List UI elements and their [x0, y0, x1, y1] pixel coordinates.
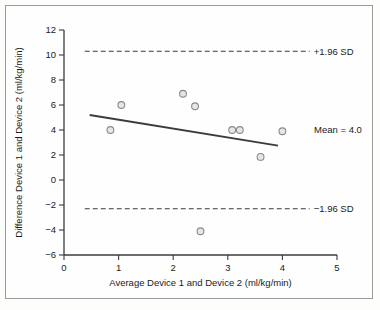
regression-line [90, 115, 278, 146]
y-tick-label: 10 [45, 49, 56, 60]
y-tick-label: 8 [51, 74, 56, 85]
scatter-plot: 012345−6−4−2024681012Average Device 1 an… [0, 0, 380, 310]
data-point [279, 128, 286, 135]
data-point [192, 103, 199, 110]
mean-label: Mean = 4.0 [314, 124, 362, 135]
y-tick-label: 4 [51, 124, 56, 135]
y-tick-label: −4 [45, 224, 56, 235]
y-tick-label: 12 [45, 24, 56, 35]
y-axis-title: Difference Device 1 and Device 2 (ml/kg/… [13, 47, 24, 237]
bland-altman-figure: 012345−6−4−2024681012Average Device 1 an… [0, 0, 380, 310]
x-tick-label: 0 [61, 262, 66, 273]
x-axis-title: Average Device 1 and Device 2 (ml/kg/min… [109, 277, 292, 288]
x-tick-label: 1 [116, 262, 121, 273]
y-tick-label: 0 [51, 174, 56, 185]
y-tick-label: −2 [45, 199, 56, 210]
x-tick-label: 2 [171, 262, 176, 273]
data-point [107, 127, 114, 134]
data-point [197, 228, 204, 235]
data-point [118, 102, 125, 109]
x-tick-label: 5 [334, 262, 339, 273]
y-tick-label: 2 [51, 149, 56, 160]
y-tick-label: 6 [51, 99, 56, 110]
lower-limit-of-agreement-label: −1.96 SD [314, 203, 354, 214]
data-point [229, 127, 236, 134]
data-point [236, 127, 243, 134]
y-tick-label: −6 [45, 249, 56, 260]
x-tick-label: 4 [280, 262, 285, 273]
x-tick-label: 3 [225, 262, 230, 273]
data-point [257, 153, 264, 160]
data-point [180, 90, 187, 97]
upper-limit-of-agreement-label: +1.96 SD [314, 46, 354, 57]
